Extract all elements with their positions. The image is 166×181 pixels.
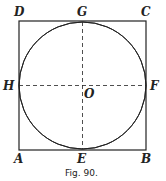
label-h: H <box>2 79 15 93</box>
figure-90-diagram: D G C H O F A E B Fig. 90. <box>0 0 166 181</box>
figure-caption: Fig. 90. <box>65 168 98 178</box>
label-e: E <box>76 152 87 166</box>
label-a: A <box>13 152 23 166</box>
label-c: C <box>141 5 151 19</box>
label-f: F <box>149 79 160 93</box>
label-b: B <box>140 152 151 166</box>
label-g: G <box>77 5 87 19</box>
label-d: D <box>13 5 25 19</box>
label-o: O <box>84 87 95 101</box>
